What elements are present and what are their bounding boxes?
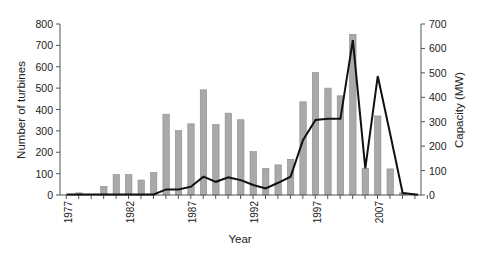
y2-tick-label: 500 [429, 67, 447, 79]
bar [113, 175, 119, 195]
y-tick-label: 200 [35, 146, 53, 158]
bar [213, 124, 219, 195]
bar [387, 169, 393, 195]
y-axis-label: Number of turbines [15, 61, 27, 159]
y-tick-label: 100 [35, 168, 53, 180]
chart-svg: 0100200300400500600700800 01002003004005… [0, 0, 487, 256]
bar [225, 113, 231, 195]
right-y-ticks: 0100200300400500600700 [421, 18, 447, 201]
y2-tick-label: 600 [429, 42, 447, 54]
bar [175, 131, 181, 195]
y-tick-label: 500 [35, 82, 53, 94]
bar [312, 73, 318, 195]
bar [275, 165, 281, 195]
x-tick-label: 1987 [187, 201, 198, 224]
bar [362, 168, 368, 195]
y2-tick-label: 700 [429, 18, 447, 30]
bar [375, 116, 381, 195]
x-ticks: 197719821987199219972007 [63, 195, 428, 223]
x-tick-label: 1977 [63, 201, 74, 224]
bar [163, 114, 169, 195]
x-tick-label: 2007 [374, 201, 385, 224]
y-tick-label: 400 [35, 104, 53, 116]
y2-tick-label: 200 [429, 140, 447, 152]
x-axis-label: Year [228, 233, 251, 245]
bar [263, 168, 269, 195]
bar [126, 175, 132, 195]
y2-axis-label: Capacity (MW) [453, 72, 465, 148]
y2-tick-label: 0 [429, 189, 435, 201]
x-tick-label: 1982 [125, 201, 136, 224]
bar [238, 120, 244, 195]
y2-tick-label: 100 [429, 165, 447, 177]
bar [150, 173, 156, 195]
x-tick-label: 1992 [249, 201, 260, 224]
bar [250, 152, 256, 195]
bar [138, 180, 144, 195]
bar-series-turbines [76, 34, 406, 195]
y-tick-label: 800 [35, 18, 53, 30]
y-tick-label: 700 [35, 39, 53, 51]
y2-tick-label: 300 [429, 116, 447, 128]
y2-tick-label: 400 [429, 91, 447, 103]
chart-container: 0100200300400500600700800 01002003004005… [0, 0, 487, 256]
y-tick-label: 0 [47, 189, 53, 201]
left-y-ticks: 0100200300400500600700800 [35, 18, 60, 201]
y-tick-label: 600 [35, 61, 53, 73]
bar [325, 88, 331, 195]
x-tick-label: 1997 [312, 201, 323, 224]
y-tick-label: 300 [35, 125, 53, 137]
